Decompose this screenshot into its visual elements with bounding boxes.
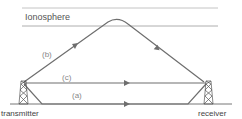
path-b-label: (b) — [42, 51, 52, 59]
receiver-label: receiver — [198, 110, 226, 118]
path-a-groundwave — [24, 84, 206, 104]
receiver-tower-icon — [204, 81, 213, 104]
path-c-label: (c) — [62, 74, 71, 82]
transmitter-tower-icon — [19, 81, 28, 104]
path-a-label: (a) — [72, 92, 82, 100]
arrow-b-up-icon — [72, 43, 78, 49]
ionosphere-label: Ionosphere — [25, 13, 70, 22]
arrow-c-icon — [124, 80, 130, 86]
transmitter-label: transmitter — [1, 110, 39, 118]
arrow-a-icon — [124, 101, 130, 107]
